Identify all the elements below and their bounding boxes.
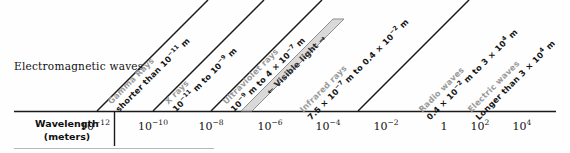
leader-line-xray xyxy=(153,0,264,111)
spectrum-figure: Electromagnetic waves Wavelength (meters… xyxy=(0,0,570,153)
axis-tick: 10−4 xyxy=(315,120,340,133)
leader-line-infrared xyxy=(358,0,469,111)
axis-tick: 10−6 xyxy=(257,120,282,133)
axis-tick: 10−10 xyxy=(138,120,168,133)
axis-tick: 10−8 xyxy=(198,120,223,133)
axis-tick: 104 xyxy=(513,120,532,133)
axis-tick: 1 xyxy=(441,120,448,133)
axis-tick: 10−2 xyxy=(373,120,398,133)
axis-tick: 102 xyxy=(471,120,490,133)
axis-tick: 10−12 xyxy=(80,120,110,133)
electromagnetic-waves-title: Electromagnetic waves xyxy=(14,60,143,72)
leader-line-gamma xyxy=(97,0,208,111)
